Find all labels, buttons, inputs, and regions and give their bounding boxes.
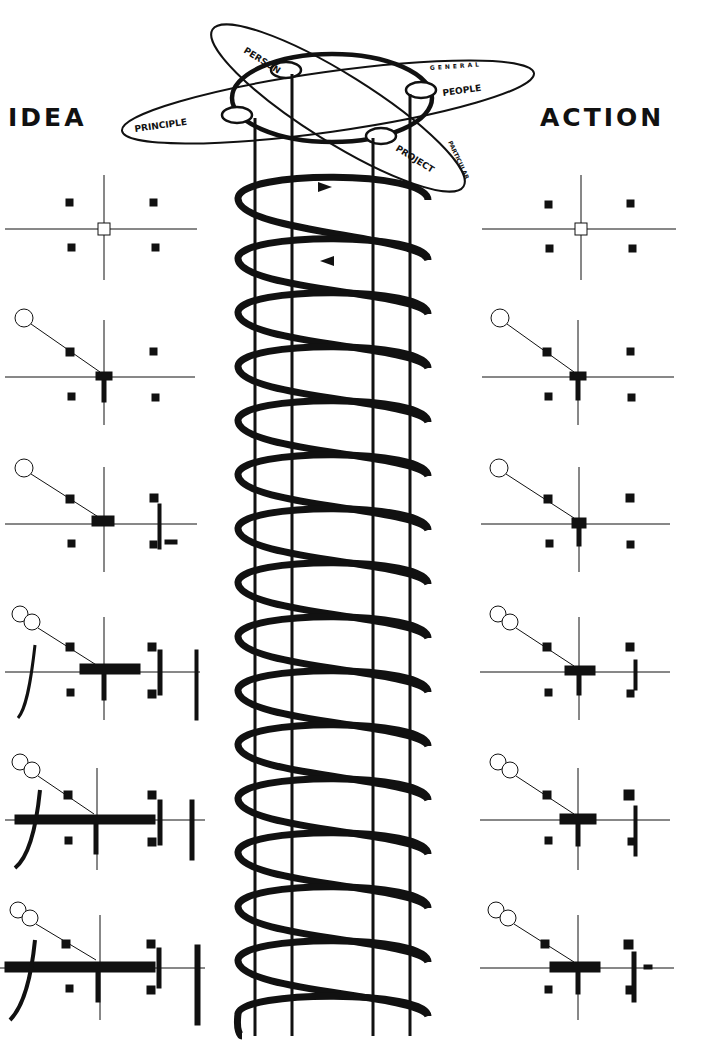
diagram-canvas: PERSON PEOPLE PRINCIPLE PROJECT GENERAL … xyxy=(0,0,728,1049)
arrow-forward-icon xyxy=(318,182,332,192)
action-panel-1 xyxy=(482,175,676,280)
helix-spiral xyxy=(237,177,428,1036)
idea-panel-6 xyxy=(0,902,205,1025)
arrow-return-icon xyxy=(320,256,334,266)
svg-text:PROJECT: PROJECT xyxy=(394,143,437,175)
action-panel-3 xyxy=(481,459,670,572)
idea-panel-4 xyxy=(5,606,200,720)
svg-text:PRINCIPLE: PRINCIPLE xyxy=(134,117,188,134)
action-panel-2 xyxy=(482,309,674,425)
idea-panels xyxy=(0,175,205,1025)
idea-panel-2 xyxy=(5,309,195,425)
node-project xyxy=(366,128,396,144)
svg-text:PARTICULAR: PARTICULAR xyxy=(447,139,471,180)
action-panels xyxy=(480,175,676,1020)
action-panel-5 xyxy=(480,754,670,870)
idea-panel-1 xyxy=(5,175,197,280)
orbit-system: PERSON PEOPLE PRINCIPLE PROJECT GENERAL … xyxy=(118,1,538,216)
action-panel-6 xyxy=(480,902,674,1020)
idea-panel-5 xyxy=(5,754,205,870)
svg-text:PEOPLE: PEOPLE xyxy=(442,83,482,98)
node-principle xyxy=(222,107,252,123)
idea-panel-3 xyxy=(5,459,197,572)
action-panel-4 xyxy=(480,606,670,720)
